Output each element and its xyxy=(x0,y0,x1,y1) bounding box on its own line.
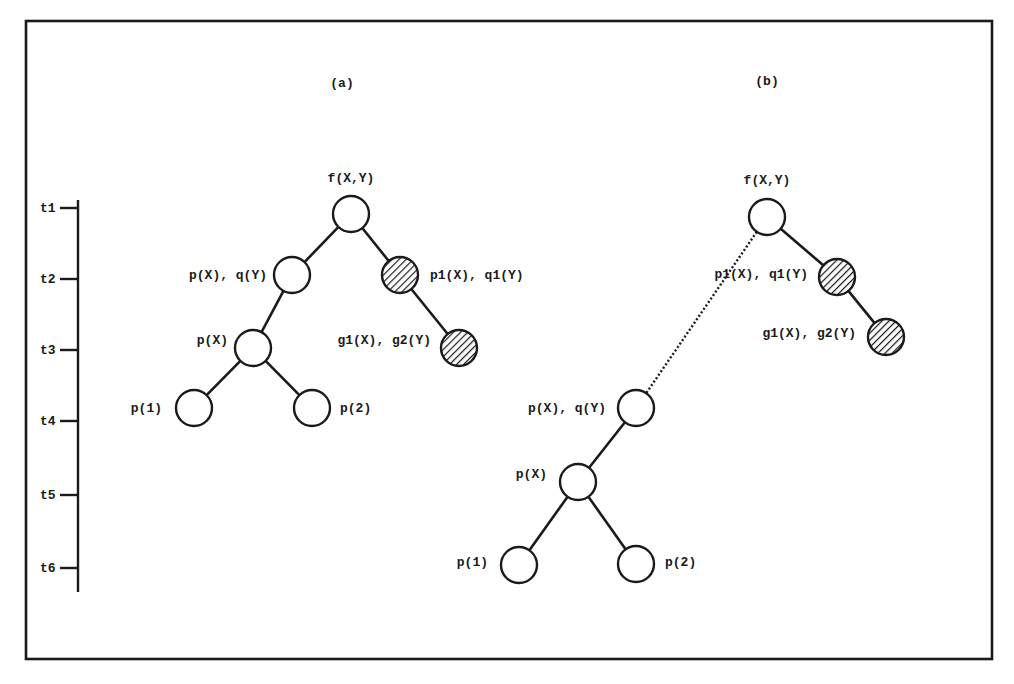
diagram-canvas: t1t2t3t4t5t6 (a) (b) f(X,Y)p(X), q(Y)p1(… xyxy=(0,0,1014,684)
tree-node-hatched xyxy=(382,257,418,293)
tree-node xyxy=(235,330,271,366)
tree-node xyxy=(274,257,310,293)
tree-node-hatched xyxy=(868,319,904,355)
timeline: t1t2t3t4t5t6 xyxy=(40,200,78,592)
tree-node-label: p(1) xyxy=(457,555,488,570)
tree-node-label: g1(X), g2(Y) xyxy=(762,326,856,341)
timeline-tick-label: t6 xyxy=(40,561,56,576)
timeline-tick-label: t2 xyxy=(40,272,56,287)
tree-node xyxy=(333,196,369,232)
tree-node xyxy=(618,390,654,426)
tree-node-label: p1(X), q1(Y) xyxy=(714,267,808,282)
timeline-tick-label: t3 xyxy=(40,343,56,358)
tree-node xyxy=(560,464,596,500)
panel-a-tree: f(X,Y)p(X), q(Y)p1(X), q1(Y)p(X)g1(X), g… xyxy=(131,171,524,426)
tree-edge xyxy=(362,228,388,261)
tree-edge xyxy=(207,361,241,395)
tree-edge xyxy=(266,361,300,395)
tree-node-label: p(X) xyxy=(516,467,547,482)
tree-node-hatched xyxy=(819,259,855,295)
panel-a-title: (a) xyxy=(330,76,353,91)
tree-node-label: p1(X), q1(Y) xyxy=(430,268,524,283)
tree-node-label: p(X), q(Y) xyxy=(189,268,267,283)
tree-node-label: p(X) xyxy=(197,333,228,348)
tree-edge xyxy=(589,422,625,468)
tree-edge-dotted xyxy=(646,232,757,393)
tree-node-label: p(X), q(Y) xyxy=(528,401,606,416)
timeline-tick-label: t1 xyxy=(40,201,56,216)
panel-b-tree: f(X,Y)p1(X), q1(Y)g1(X), g2(Y)p(X), q(Y)… xyxy=(457,173,904,583)
tree-node xyxy=(501,547,537,583)
tree-edge xyxy=(588,497,625,550)
tree-node xyxy=(618,546,654,582)
timeline-tick-label: t5 xyxy=(40,488,56,503)
tree-node xyxy=(294,390,330,426)
timeline-tick-label: t4 xyxy=(40,414,56,429)
panel-b-title: (b) xyxy=(755,74,778,89)
tree-node-label: f(X,Y) xyxy=(744,173,791,188)
tree-node-label: f(X,Y) xyxy=(328,171,375,186)
tree-edge xyxy=(781,229,824,266)
tree-node-label: p(1) xyxy=(131,401,162,416)
tree-edge xyxy=(848,291,874,323)
tree-node-hatched xyxy=(441,330,477,366)
tree-node-label: g1(X), g2(Y) xyxy=(337,333,431,348)
tree-node xyxy=(749,199,785,235)
tree-node-label: p(2) xyxy=(665,555,696,570)
tree-edge xyxy=(262,291,284,332)
tree-node-label: p(2) xyxy=(340,401,371,416)
tree-edge xyxy=(529,497,567,551)
tree-node xyxy=(176,390,212,426)
tree-edge xyxy=(411,289,447,334)
tree-edge xyxy=(305,227,339,262)
